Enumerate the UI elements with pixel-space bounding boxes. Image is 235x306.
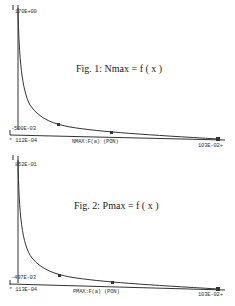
plot-2: [0, 150, 235, 306]
x-max-label: 103E-02+: [198, 142, 223, 149]
figure-title: Fig. 2: Pmax = f ( x ): [74, 200, 159, 211]
x-axis-label: NMAX:F(a) (PON): [72, 138, 119, 145]
x-min-label: * 113E-04: [9, 286, 37, 293]
figure-title: Fig. 1: Nmax = f ( x ): [76, 63, 162, 74]
figure-2: 852E-01 -497E-03 * 113E-04 PMAX:F(a) (PO…: [0, 150, 235, 306]
x-max-label: 103E-02+: [198, 291, 223, 298]
y-max-label: 170E+00: [15, 8, 37, 15]
x-axis-label: PMAX:F(a) (PON): [73, 288, 120, 295]
figure-1: 170E+00 -500E-03 * 112E-04 NMAX:F(a) (PO…: [0, 0, 235, 150]
y-max-label: 852E-01: [15, 161, 37, 168]
x-min-label: * 112E-04: [9, 137, 37, 144]
y-min-label: -497E-03: [11, 274, 36, 281]
y-min-label: -500E-03: [11, 125, 36, 132]
